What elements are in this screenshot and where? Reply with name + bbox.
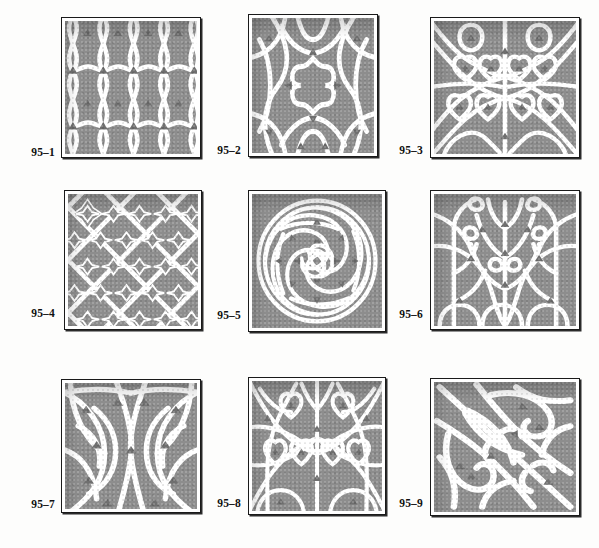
- print-shading: [68, 194, 198, 326]
- halftone-grain: [65, 21, 197, 154]
- figure-label-95-2: 95–2: [196, 144, 241, 156]
- print-shading: [434, 21, 576, 154]
- tracery-artwork-foliated-symmetry: [252, 381, 382, 511]
- figure-frame: [430, 190, 580, 330]
- tracery-artwork-whirl-rosette: [252, 194, 382, 328]
- print-shading: [252, 18, 374, 153]
- tracery-artwork-branching-tree: [434, 194, 576, 326]
- figure-frame: [430, 17, 580, 158]
- figure-95-9: 95–9: [0, 0, 599, 548]
- print-shading: [434, 194, 576, 326]
- figure-95-1: 95–1: [0, 0, 599, 548]
- print-shading: [252, 381, 382, 511]
- figure-frame: [430, 378, 580, 516]
- tracery-artwork-flowing-leaf: [65, 383, 197, 509]
- tracery-artwork-mirrored-arch-trefoil: [434, 21, 576, 154]
- tracery-plate: 95–1: [0, 0, 599, 548]
- figure-label-95-3: 95–3: [378, 144, 423, 156]
- halftone-grain: [65, 383, 197, 509]
- figure-frame: [248, 14, 378, 157]
- halftone-grain: [252, 18, 374, 153]
- figure-frame: [248, 190, 386, 332]
- figure-95-3: 95–3: [0, 0, 599, 548]
- figure-frame: [61, 17, 201, 158]
- tracery-artwork-ogee-net: [65, 21, 197, 154]
- print-shading: [65, 383, 197, 509]
- figure-95-8: 95–8: [0, 0, 599, 548]
- tracery-artwork-diagonal-thorn: [434, 382, 576, 512]
- figure-label-95-5: 95–5: [196, 309, 241, 321]
- halftone-grain: [434, 382, 576, 512]
- print-shading: [65, 21, 197, 154]
- figure-95-2: 95–2: [0, 0, 599, 548]
- halftone-grain: [252, 194, 382, 328]
- halftone-grain: [68, 194, 198, 326]
- figure-95-7: 95–7: [0, 0, 599, 548]
- figure-label-95-6: 95–6: [378, 308, 423, 320]
- tracery-artwork-cross-quatrefoil: [252, 18, 374, 153]
- figure-label-95-9: 95–9: [378, 497, 423, 509]
- print-shading: [434, 382, 576, 512]
- halftone-grain: [434, 194, 576, 326]
- figure-label-95-8: 95–8: [196, 497, 241, 509]
- figure-frame: [248, 377, 386, 515]
- figure-frame: [64, 190, 202, 330]
- figure-label-95-1: 95–1: [10, 146, 55, 158]
- figure-95-4: 95–4: [0, 0, 599, 548]
- figure-label-95-4: 95–4: [10, 307, 55, 319]
- tracery-artwork-diagonal-lattice: [68, 194, 198, 326]
- halftone-grain: [252, 381, 382, 511]
- figure-95-6: 95–6: [0, 0, 599, 548]
- figure-label-95-7: 95–7: [10, 498, 55, 510]
- figure-95-5: 95–5: [0, 0, 599, 548]
- print-shading: [252, 194, 382, 328]
- halftone-grain: [434, 21, 576, 154]
- figure-frame: [61, 379, 201, 513]
